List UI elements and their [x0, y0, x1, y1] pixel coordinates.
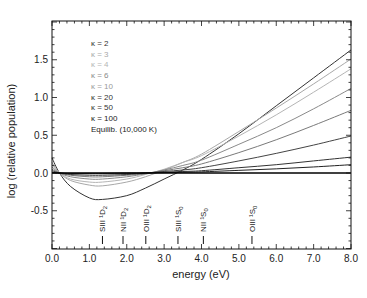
legend-item: κ = 4	[91, 60, 109, 69]
y-tick-label: 0.0	[34, 168, 48, 179]
x-tick-label: 2.0	[120, 253, 134, 264]
annotation-label: NII ¹D2	[119, 207, 129, 232]
x-tick-label: 0.0	[45, 253, 59, 264]
x-tick-label: 8.0	[344, 253, 358, 264]
chart: SIII ¹D2NII ¹D2OIII ¹D2SIII ¹S0NII ¹S0OI…	[0, 0, 367, 298]
y-axis-title: log (relative population)	[5, 84, 17, 198]
legend-item: κ = 2	[91, 39, 109, 48]
x-tick-label: 1.0	[82, 253, 96, 264]
legend-item: κ = 100	[91, 114, 118, 123]
y-tick-label: 0.5	[34, 130, 48, 141]
legend-item: κ = 50	[91, 103, 114, 112]
legend-item: κ = 3	[91, 50, 109, 59]
annotation-label: SIII ¹D2	[98, 205, 108, 232]
legend-item: κ = 6	[91, 71, 109, 80]
annotation-label: OIII ¹D2	[142, 204, 152, 232]
legend-item: κ = 10	[91, 82, 114, 91]
annotation-label: SIII ¹S0	[174, 206, 184, 232]
x-tick-label: 4.0	[195, 253, 209, 264]
annotation-label: NII ¹S0	[199, 208, 209, 232]
x-tick-label: 7.0	[307, 253, 321, 264]
legend-item: κ = 20	[91, 93, 114, 102]
x-tick-label: 5.0	[232, 253, 246, 264]
legend-item: Equilib. (10,000 K)	[91, 125, 157, 134]
x-axis-title: energy (eV)	[172, 268, 229, 280]
energy-level-annotations: SIII ¹D2NII ¹D2OIII ¹D2SIII ¹S0NII ¹S0OI…	[98, 204, 257, 244]
series-line	[52, 88, 351, 179]
x-tick-label: 6.0	[269, 253, 283, 264]
y-axis-ticks: -0.50.00.51.01.5	[31, 22, 351, 249]
x-tick-label: 3.0	[157, 253, 171, 264]
y-tick-label: 1.0	[34, 92, 48, 103]
annotation-label: OIII ¹S0	[248, 205, 258, 232]
y-tick-label: 1.5	[34, 54, 48, 65]
series-line	[52, 165, 351, 174]
y-tick-label: -0.5	[31, 205, 49, 216]
legend: κ = 2κ = 3κ = 4κ = 6κ = 10κ = 20κ = 50κ …	[91, 39, 157, 134]
